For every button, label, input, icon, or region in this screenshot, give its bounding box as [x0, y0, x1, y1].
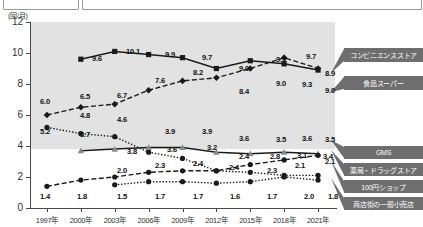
top-box-left [3, 0, 79, 10]
series-marker [112, 182, 117, 187]
point-value-label: 3.2 [207, 143, 217, 152]
point-value-label: 3.5 [325, 135, 335, 144]
series-marker [146, 52, 151, 57]
point-value-label: 9.0 [239, 64, 249, 73]
series-marker [315, 178, 320, 183]
point-value-label: 1.5 [117, 192, 127, 201]
legend-item-3[interactable]: GMS [344, 146, 423, 159]
series-marker [180, 156, 185, 161]
series-marker [180, 179, 185, 184]
series-marker [112, 134, 117, 139]
series-marker [248, 162, 253, 167]
point-value-label: 2.0 [117, 166, 127, 175]
point-value-label: 8.4 [239, 87, 249, 96]
series-marker [180, 55, 185, 60]
point-value-label: 3.9 [165, 127, 175, 136]
series-marker [315, 153, 320, 158]
series-marker [111, 101, 118, 108]
series-marker [44, 112, 51, 119]
point-value-label: 3.9 [202, 127, 212, 136]
point-value-label: 1.7 [155, 192, 165, 201]
point-value-label: 1.6 [230, 192, 240, 201]
point-value-label: 9.0 [325, 86, 335, 95]
series-marker [214, 168, 219, 173]
point-value-label: 2.3 [267, 166, 277, 175]
point-value-label: 3.1 [297, 151, 307, 160]
point-value-label: 9.7 [202, 53, 212, 62]
point-value-label: 9.5 [276, 55, 286, 64]
point-value-label: 4.8 [80, 111, 90, 120]
series-marker [78, 178, 83, 183]
point-value-label: 1.8 [77, 192, 87, 201]
point-value-label: 9.6 [92, 54, 102, 63]
series-marker [112, 49, 117, 54]
series-marker [282, 157, 287, 162]
series-marker [44, 184, 49, 189]
series-marker [282, 174, 287, 179]
legend-item-6[interactable]: 商店街の一般小売店 [344, 197, 423, 210]
point-value-label: 3.4 [323, 152, 333, 161]
series-marker [180, 168, 185, 173]
point-value-label: 9.7 [306, 52, 316, 61]
point-value-label: 8.9 [325, 69, 335, 78]
point-value-label: 3.6 [239, 134, 249, 143]
series-marker [146, 179, 151, 184]
series-marker [145, 87, 152, 94]
legend-item-5[interactable]: 100円ショップ [344, 180, 423, 193]
point-value-label: 1.7 [267, 192, 277, 201]
point-value-label: 9.0 [276, 79, 286, 88]
series-marker [112, 174, 117, 179]
point-value-label: 9.3 [302, 80, 312, 89]
series-marker [179, 78, 186, 85]
point-value-label: 4.6 [117, 115, 127, 124]
series-marker [248, 179, 253, 184]
point-value-label: 3.6 [167, 145, 177, 154]
series-marker [213, 75, 220, 82]
series-marker [78, 57, 83, 62]
top-cropped-boxes [0, 0, 423, 9]
point-value-label: 7.6 [155, 76, 165, 85]
point-value-label: 1.8 [328, 192, 338, 201]
legend-item-4[interactable]: 薬局・ドラッグストア [344, 163, 423, 176]
point-value-label: 3.8 [127, 147, 137, 156]
series-marker [248, 170, 253, 175]
legend-item-1[interactable]: コンビニエンスストア [344, 48, 423, 62]
point-value-label: 3.6 [302, 134, 312, 143]
point-value-label: 1.4 [40, 192, 50, 201]
point-value-label: 6.0 [40, 97, 50, 106]
line-chart: 024681012 1997年2000年2003年2006年2009年2012年… [0, 18, 423, 227]
series-marker [214, 181, 219, 186]
series-marker [146, 150, 151, 155]
point-value-label: 2.3 [155, 161, 165, 170]
point-value-label: 2.4 [193, 159, 203, 168]
point-value-label: 5.2 [40, 127, 50, 136]
point-value-label: 6.5 [80, 92, 90, 101]
point-value-label: 2.4 [239, 152, 249, 161]
point-value-label: 10.1 [126, 47, 140, 56]
point-value-label: 8.2 [193, 68, 203, 77]
series-marker [214, 66, 219, 71]
series-marker [315, 173, 320, 178]
point-value-label: 1.7 [193, 192, 203, 201]
point-value-label: 2.8 [270, 152, 280, 161]
point-value-label: 3.5 [276, 135, 286, 144]
point-value-label: 3.7 [80, 130, 90, 139]
point-value-label: 2.1 [295, 161, 305, 170]
top-box-right [82, 0, 422, 10]
series-marker [146, 170, 151, 175]
point-value-label: 2.4 [229, 163, 239, 172]
point-value-label: 9.9 [165, 50, 175, 59]
point-value-label: 2.0 [304, 192, 314, 201]
point-value-label: 6.7 [117, 91, 127, 100]
legend-item-2[interactable]: 食品スーパー [344, 76, 423, 90]
